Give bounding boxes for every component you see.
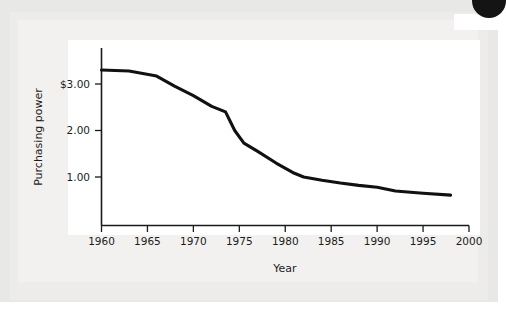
x-tick-label: 1970: [180, 235, 207, 247]
y-axis-tick-labels: 1.002.00$3.00: [60, 78, 90, 183]
x-tick-label: 1965: [134, 235, 161, 247]
y-tick-label: 2.00: [67, 124, 90, 136]
x-axis-ticks: [102, 226, 470, 233]
y-tick-label: 1.00: [67, 171, 90, 183]
x-tick-label: 1995: [410, 235, 437, 247]
x-tick-label: 1960: [88, 235, 115, 247]
x-tick-label: 1985: [318, 235, 345, 247]
y-axis-ticks: [95, 84, 102, 177]
x-tick-label: 1990: [364, 235, 391, 247]
x-tick-label: 2000: [456, 235, 483, 247]
x-axis-tick-labels: 196019651970197519801985199019952000: [88, 235, 482, 247]
y-axis-title: Purchasing power: [32, 88, 45, 186]
y-tick-label: $3.00: [60, 78, 90, 90]
x-axis-title: Year: [272, 262, 297, 275]
purchasing-power-line: [102, 70, 451, 195]
x-tick-label: 1975: [226, 235, 253, 247]
x-tick-label: 1980: [272, 235, 299, 247]
